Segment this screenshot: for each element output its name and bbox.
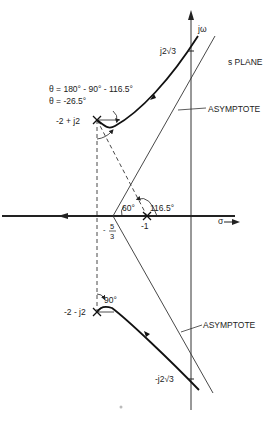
departure-angle-arc-icon bbox=[113, 111, 117, 121]
centroid-sign: - bbox=[103, 225, 106, 234]
real-axis-left-arrow-icon bbox=[58, 213, 68, 219]
pole-real-label: -1 bbox=[141, 221, 149, 231]
asymptote-angle-label: 60° bbox=[122, 203, 135, 213]
departure-angle-result: θ = -26.5° bbox=[49, 96, 86, 106]
real-axis-label: σ bbox=[218, 216, 224, 226]
crossing-label-upper: j2√3 bbox=[159, 46, 176, 56]
locus-branch-lower bbox=[97, 307, 199, 390]
asymptote-lower bbox=[113, 216, 213, 393]
pole-lower-label: -2 - j2 bbox=[64, 307, 86, 317]
asymptote-label-upper: ASYMPTOTE bbox=[208, 104, 261, 114]
pole-upper-label: -2 + j2 bbox=[56, 116, 80, 126]
centroid-numerator: 5 bbox=[110, 222, 114, 231]
dashed-guide-diagonal bbox=[97, 120, 147, 216]
imaginary-axis-arrow-icon bbox=[188, 10, 194, 20]
plane-label: s PLANE bbox=[228, 57, 263, 67]
root-locus-diagram: jω σ s PLANE ASYMPTOTE ASYMPTOTE -2 + j2… bbox=[0, 0, 276, 425]
centroid-denominator: 3 bbox=[110, 232, 114, 241]
crossing-label-lower: -j2√3 bbox=[155, 374, 174, 384]
departure-angle-formula: θ = 180° - 90° - 116.5° bbox=[49, 84, 133, 94]
asymptote-leader-upper bbox=[178, 108, 206, 110]
page-dot bbox=[120, 406, 123, 409]
imaginary-axis-label: jω bbox=[197, 24, 207, 34]
lower-angle-label: 90° bbox=[104, 295, 117, 305]
pole-real-angle-label: 116.5° bbox=[150, 203, 174, 213]
asymptote-label-lower: ASYMPTOTE bbox=[203, 320, 256, 330]
locus-branch-upper bbox=[97, 36, 198, 128]
lower-angle-arc-icon bbox=[97, 294, 104, 298]
asymptote-upper bbox=[113, 36, 215, 216]
